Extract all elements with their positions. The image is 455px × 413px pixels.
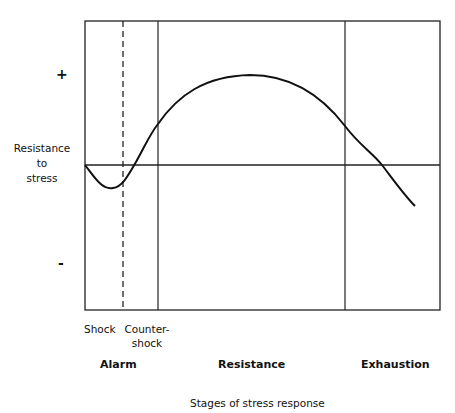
x-axis-title: Stages of stress response: [190, 397, 325, 409]
countershock-label: Counter- shock: [122, 322, 172, 350]
stage-alarm: Alarm: [100, 358, 137, 371]
y-axis-label: Resistance to stress: [2, 141, 82, 186]
stage-exhaustion: Exhaustion: [361, 358, 430, 371]
shock-label: Shock: [84, 322, 116, 336]
y-label-line: stress: [2, 171, 82, 186]
minus-tick: -: [58, 255, 64, 271]
y-label-line: to: [2, 156, 82, 171]
y-label-line: Resistance: [2, 141, 82, 156]
plus-tick: +: [56, 66, 68, 82]
countershock-line: Counter-: [122, 322, 172, 336]
stress-response-diagram: [0, 0, 455, 413]
countershock-line: shock: [122, 336, 172, 350]
resistance-curve: [85, 75, 415, 206]
stage-resistance: Resistance: [218, 358, 285, 371]
